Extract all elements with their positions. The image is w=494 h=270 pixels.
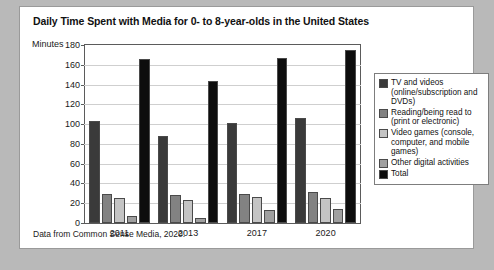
source-note: Data from Common Sense Media, 2020.: [33, 229, 185, 239]
y-tick-mark: [81, 65, 84, 66]
legend-swatch-icon: [379, 109, 388, 118]
y-tick-label: 0: [75, 218, 80, 228]
legend-swatch-icon: [379, 79, 388, 88]
legend-label: Reading/being read to (print or electron…: [391, 108, 484, 127]
y-tick-label: 20: [70, 198, 80, 208]
legend: TV and videos (online/subscription and D…: [374, 73, 489, 185]
legend-swatch-icon: [379, 129, 388, 138]
legend-item: Total: [379, 169, 484, 179]
y-tick-mark: [81, 124, 84, 125]
legend-label: Other digital activities: [391, 158, 469, 168]
y-tick-label: 60: [70, 159, 80, 169]
page-title: Daily Time Spent with Media for 0- to 8-…: [33, 15, 463, 27]
plot-wrapper: 020406080100120140160180 201120132017202…: [84, 44, 361, 224]
y-tick-mark: [81, 104, 84, 105]
y-tick-label: 120: [65, 99, 80, 109]
y-tick-label: 180: [65, 40, 80, 50]
x-tick-label: 2017: [223, 228, 292, 238]
legend-item: Video games (console, computer, and mobi…: [379, 128, 484, 157]
y-tick-mark: [81, 183, 84, 184]
legend-item: Reading/being read to (print or electron…: [379, 108, 484, 127]
y-tick-label: 140: [65, 80, 80, 90]
figure-card: Daily Time Spent with Media for 0- to 8-…: [19, 6, 474, 249]
legend-swatch-icon: [379, 170, 388, 179]
y-tick-mark: [81, 203, 84, 204]
x-tick: 2020: [291, 44, 360, 224]
legend-item: TV and videos (online/subscription and D…: [379, 78, 484, 107]
legend-label: Video games (console, computer, and mobi…: [391, 128, 484, 157]
x-tick: 2011: [85, 44, 154, 224]
y-tick-mark: [81, 45, 84, 46]
y-tick-mark: [81, 164, 84, 165]
legend-label: Total: [391, 169, 408, 179]
y-tick-label: 40: [70, 178, 80, 188]
legend-label: TV and videos (online/subscription and D…: [391, 78, 484, 107]
x-tick-label: 2020: [291, 228, 360, 238]
legend-item: Other digital activities: [379, 158, 484, 168]
y-tick-label: 80: [70, 139, 80, 149]
y-axis-title: Minutes: [32, 39, 64, 49]
y-tick-mark: [81, 223, 84, 224]
y-tick-mark: [81, 85, 84, 86]
x-tick: 2013: [154, 44, 223, 224]
y-tick-label: 160: [65, 60, 80, 70]
legend-swatch-icon: [379, 159, 388, 168]
y-tick-mark: [81, 144, 84, 145]
y-tick-label: 100: [65, 119, 80, 129]
x-tick: 2017: [223, 44, 292, 224]
